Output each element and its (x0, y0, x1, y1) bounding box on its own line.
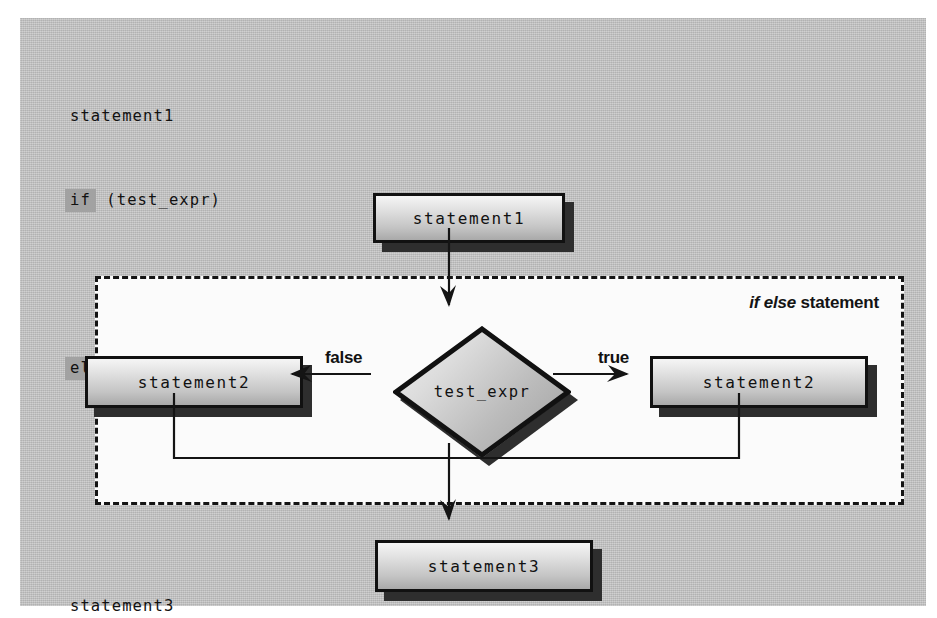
region-label-rest: statement (796, 293, 879, 312)
code-text: (test_expr) (96, 191, 221, 209)
diamond-label: test_expr (393, 326, 571, 458)
node-statement3: statement3 (375, 540, 593, 592)
keyword-if: if (65, 189, 96, 212)
figure-panel: statement1 if (test_expr) statement2 els… (20, 18, 926, 606)
edge-label-true: true (598, 348, 629, 368)
node-decision-test-expr: test_expr (393, 326, 571, 458)
node-label: statement2 (703, 373, 815, 392)
node-label: statement1 (413, 209, 525, 228)
region-label: if else statement (749, 293, 879, 313)
code-line-6: statement3 (70, 592, 221, 618)
region-label-keyword: if else (749, 293, 796, 312)
node-statement2-true-branch: statement2 (650, 356, 868, 408)
diagram-page: statement1 if (test_expr) statement2 els… (0, 0, 937, 618)
code-text: statement1 (70, 107, 174, 125)
node-statement1: statement1 (373, 193, 565, 243)
node-label: statement3 (428, 557, 540, 576)
code-blank-line (70, 522, 221, 536)
edge-label-false: false (325, 348, 362, 368)
code-line-1: statement1 (70, 102, 221, 130)
code-line-2: if (test_expr) (70, 186, 221, 214)
node-label: statement2 (138, 373, 250, 392)
node-statement2-false-branch: statement2 (85, 356, 303, 408)
code-text: statement3 (70, 597, 174, 615)
